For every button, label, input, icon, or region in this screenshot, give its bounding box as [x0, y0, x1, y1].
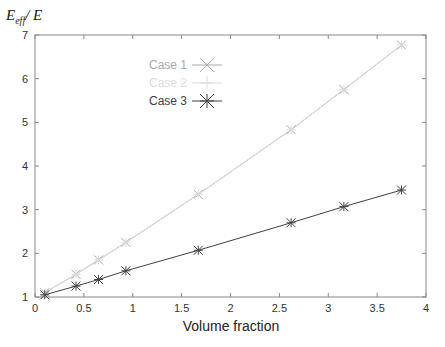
y-axis-label: Eeff/ E — [5, 7, 42, 26]
legend-label: Case 2 — [149, 76, 187, 90]
x-tick-label: 3.5 — [369, 302, 384, 314]
y-tick-label: 4 — [22, 160, 28, 172]
axis-ticks: 00.511.522.533.541234567 — [22, 29, 429, 314]
x-tick-label: 1 — [130, 302, 136, 314]
x-tick-label: 0 — [32, 302, 38, 314]
y-tick-label: 1 — [22, 291, 28, 303]
x-tick-label: 2 — [227, 302, 233, 314]
legend-label: Case 3 — [149, 94, 187, 108]
y-tick-label: 5 — [22, 116, 28, 128]
x-tick-label: 3 — [325, 302, 331, 314]
x-tick-label: 0.5 — [76, 302, 91, 314]
series-case-3 — [40, 186, 406, 300]
data-series — [40, 41, 406, 300]
legend-item: Case 2 — [149, 76, 222, 90]
legend-label: Case 1 — [149, 58, 187, 72]
y-tick-label: 2 — [22, 247, 28, 259]
series-case-2 — [40, 41, 406, 298]
series-case-1 — [40, 41, 406, 298]
y-tick-label: 6 — [22, 73, 28, 85]
chart: Eeff/ E 00.511.522.533.541234567 Case 1C… — [0, 0, 445, 347]
x-tick-label: 1.5 — [174, 302, 189, 314]
plot-area — [35, 35, 426, 297]
x-tick-label: 4 — [423, 302, 429, 314]
y-tick-label: 7 — [22, 29, 28, 41]
legend: Case 1Case 2Case 3 — [149, 58, 222, 108]
legend-item: Case 1 — [149, 58, 222, 72]
legend-item: Case 3 — [149, 94, 222, 108]
x-tick-label: 2.5 — [272, 302, 287, 314]
x-axis-label: Volume fraction — [183, 318, 280, 334]
y-tick-label: 3 — [22, 204, 28, 216]
